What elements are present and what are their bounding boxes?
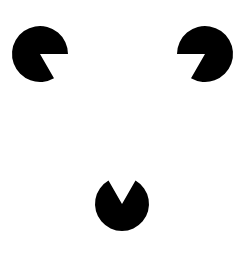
pacman-inducer-top-left	[12, 26, 68, 82]
pacman-inducer-top-right	[177, 26, 233, 82]
diagram-canvas	[0, 0, 246, 276]
pacman-inducer-bottom	[95, 181, 149, 231]
kanizsa-triangle-diagram	[0, 0, 246, 276]
